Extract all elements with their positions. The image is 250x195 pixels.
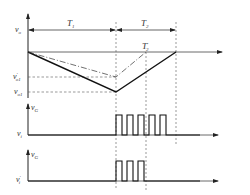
pulse1-y-label: vG (31, 103, 39, 113)
vo1-prime-label: v′o1 (13, 72, 21, 82)
gate-pulse-plot-1: vG vi (17, 103, 218, 139)
pulse-train-1 (28, 115, 200, 135)
pulse-train-2 (28, 161, 200, 181)
t1-label: T1 (67, 18, 75, 29)
gate-pulse-plot-2: vG v′i (16, 150, 218, 185)
y-axis-label: vo (15, 25, 22, 35)
pulse2-y-label: vG (31, 150, 39, 160)
integration-waveform-prime (28, 52, 146, 77)
pulse1-x-label: vi (17, 129, 23, 139)
t2-prime-label: T′2 (142, 41, 149, 52)
pulse2-x-label: v′i (16, 175, 22, 185)
dual-slope-integration-diagram: vo T1 T2 T′2 v′o1 vo1 vG vi (0, 0, 250, 195)
vo1-label: vo1 (14, 87, 23, 97)
t2-label: T2 (141, 18, 149, 29)
integrator-output-plot: vo T1 T2 T′2 v′o1 vo1 (13, 14, 222, 190)
